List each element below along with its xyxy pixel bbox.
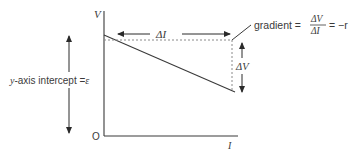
- y-axis-label: V: [94, 8, 102, 20]
- x-axis-label: I: [227, 140, 232, 151]
- gradient-label: gradient =: [254, 19, 301, 31]
- gradient-result: = −r: [329, 19, 348, 31]
- gradient-denominator: ΔI: [310, 26, 321, 36]
- intercept-text: -axis intercept =: [14, 75, 85, 86]
- gradient-leader: [232, 25, 251, 40]
- intercept-label: y-axis intercept =ε: [9, 75, 89, 86]
- origin-label: O: [92, 131, 100, 142]
- delta-v-label: ΔV: [235, 61, 250, 72]
- delta-i-label: ΔI: [155, 28, 167, 40]
- intercept-epsilon: ε: [85, 75, 89, 86]
- gradient-numerator: ΔV: [310, 14, 324, 24]
- vi-diagram: V O I ΔI gradient = ΔV ΔI = −r ΔV y-axis…: [0, 0, 358, 154]
- vi-line: [104, 35, 235, 92]
